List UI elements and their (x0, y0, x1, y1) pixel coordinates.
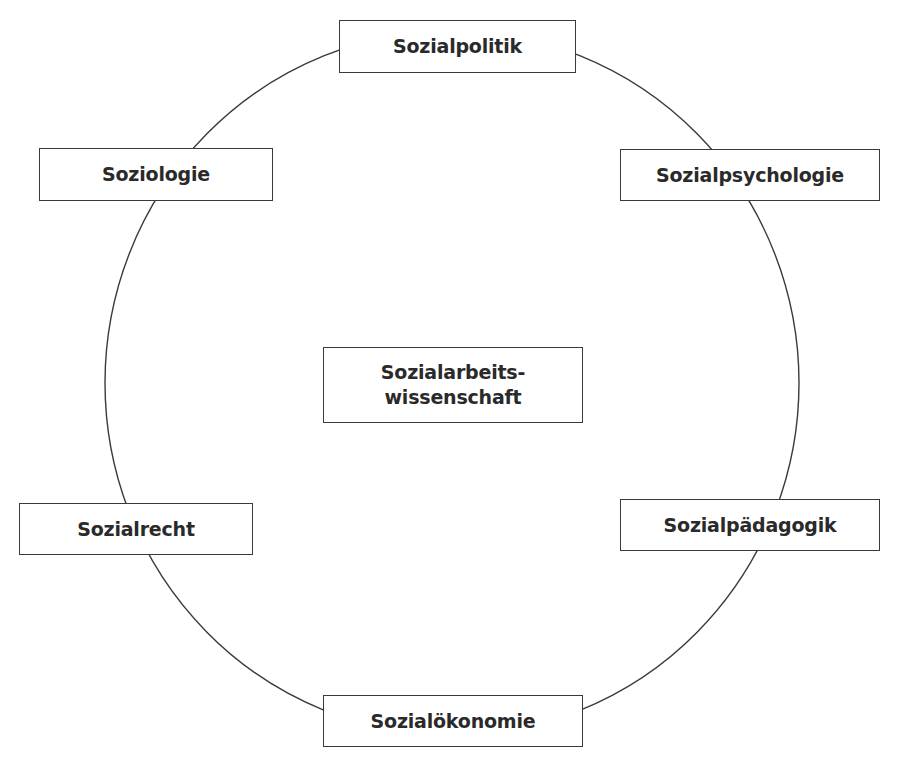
diagram-canvas: Sozialpolitik Soziologie Sozialpsycholog… (0, 0, 897, 762)
node-label: Sozialpsychologie (656, 163, 844, 188)
node-sozialoekonomie: Sozialökonomie (323, 695, 583, 747)
node-label: Soziologie (102, 162, 210, 187)
node-sozialrecht: Sozialrecht (19, 503, 253, 555)
center-node-label: Sozialarbeits- wissenschaft (381, 360, 525, 410)
node-sozialpsychologie: Sozialpsychologie (620, 149, 880, 201)
node-label: Sozialrecht (77, 517, 195, 542)
node-label: Sozialpädagogik (664, 513, 837, 538)
node-sozialpolitik: Sozialpolitik (339, 20, 576, 73)
node-label: Sozialpolitik (393, 34, 522, 59)
center-node-sozialarbeitswissenschaft: Sozialarbeits- wissenschaft (323, 347, 583, 423)
node-sozialpaedagogik: Sozialpädagogik (620, 499, 880, 551)
node-label: Sozialökonomie (371, 709, 536, 734)
node-soziologie: Soziologie (39, 148, 273, 201)
